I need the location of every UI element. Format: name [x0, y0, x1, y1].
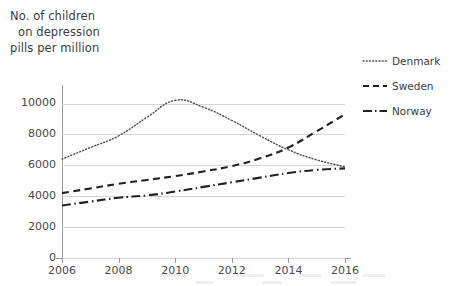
x-tick-label-2008: 2008 [97, 264, 141, 277]
x-tick-mark-2006 [62, 258, 63, 263]
x-tick-label-2016: 2016 [323, 264, 367, 277]
chart-legend: DenmarkSwedenNorway [362, 48, 448, 123]
legend-label: Norway [392, 105, 432, 117]
legend-swatch-dotted-icon [362, 56, 388, 66]
chart-title-line-3: pills per million [10, 40, 160, 56]
chart-title: No. of children on depression pills per … [10, 8, 160, 56]
chart-title-line-1: No. of children [10, 8, 160, 24]
legend-label: Denmark [392, 55, 440, 67]
x-tick-mark-2008 [119, 258, 120, 263]
y-tick-label-10000: 10000 [4, 96, 56, 109]
legend-label: Sweden [392, 80, 434, 92]
y-tick-label-6000: 6000 [4, 158, 56, 171]
legend-item-denmark[interactable]: Denmark [362, 48, 448, 73]
x-tick-mark-2012 [232, 258, 233, 263]
y-tick-label-2000: 2000 [4, 220, 56, 233]
gridline-0 [62, 258, 345, 259]
legend-swatch-dash-dot-icon [362, 106, 388, 116]
x-tick-label-2006: 2006 [40, 264, 84, 277]
y-tick-label-0: 0 [4, 251, 56, 264]
x-tick-label-2014: 2014 [266, 264, 310, 277]
y-tick-label-8000: 8000 [4, 127, 56, 140]
x-tick-mark-2010 [175, 258, 176, 263]
plot-area [62, 88, 345, 258]
series-layer [62, 88, 345, 258]
legend-item-norway[interactable]: Norway [362, 98, 448, 123]
series-line-norway [62, 168, 345, 205]
y-tick-label-4000: 4000 [4, 189, 56, 202]
legend-item-sweden[interactable]: Sweden [362, 73, 448, 98]
series-line-sweden [62, 114, 345, 193]
x-tick-label-2010: 2010 [153, 264, 197, 277]
series-line-denmark [62, 100, 345, 167]
x-tick-label-2012: 2012 [210, 264, 254, 277]
x-tick-mark-2016 [345, 258, 346, 263]
chart-title-line-2: on depression [10, 24, 160, 40]
legend-swatch-dashed-icon [362, 81, 388, 91]
x-tick-mark-2014 [288, 258, 289, 263]
